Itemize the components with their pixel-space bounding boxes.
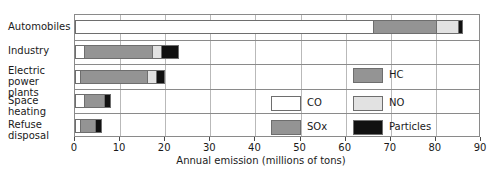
legend-swatch-particles xyxy=(353,120,383,135)
legend-label: CO xyxy=(307,97,322,109)
bar-segment-particles xyxy=(458,20,463,34)
category-label: Automobiles xyxy=(8,21,70,32)
bar-segment-co xyxy=(75,45,84,59)
category-label: Refuse disposal xyxy=(8,119,70,141)
legend-label: HC xyxy=(389,69,404,81)
x-tick xyxy=(300,137,301,141)
legend-swatch-co xyxy=(271,96,301,111)
x-tick xyxy=(74,137,75,141)
x-axis-title: Annual emission (millions of tons) xyxy=(0,155,492,166)
x-tick xyxy=(209,137,210,141)
x-tick xyxy=(119,137,120,141)
category-label: Space heating xyxy=(8,95,70,117)
legend-label: NO xyxy=(389,97,404,109)
plot-area: COSOxHCNOParticles xyxy=(74,14,480,137)
category-label: Electric power plants xyxy=(8,65,70,98)
bar-segment-sox xyxy=(84,45,152,59)
emissions-chart-figure: AutomobilesIndustryElectric power plants… xyxy=(0,0,492,178)
x-tick-label: 20 xyxy=(149,142,179,154)
legend-label: Particles xyxy=(389,121,431,133)
x-tick xyxy=(390,137,391,141)
bar-segment-sox xyxy=(80,119,96,133)
x-tick-label: 30 xyxy=(194,142,224,154)
legend-swatch-sox xyxy=(271,120,301,135)
row-separator xyxy=(75,89,479,90)
x-tick-label: 90 xyxy=(465,142,492,154)
row-separator xyxy=(75,113,479,114)
legend-swatch-hc xyxy=(353,68,383,83)
bar-segment-particles xyxy=(161,45,179,59)
x-tick-label: 80 xyxy=(420,142,450,154)
bar-row xyxy=(75,70,481,84)
x-tick xyxy=(480,137,481,141)
bar-segment-no xyxy=(436,20,459,34)
category-label: Industry xyxy=(8,45,70,56)
bar-segment-co xyxy=(75,94,84,108)
row-separator xyxy=(75,64,479,65)
x-tick xyxy=(164,137,165,141)
legend-label: SOx xyxy=(307,121,327,133)
bar-segment-particles xyxy=(104,94,111,108)
x-tick-label: 10 xyxy=(104,142,134,154)
bar-segment-hc xyxy=(373,20,436,34)
x-axis-title-label: Annual emission (millions of tons) xyxy=(176,155,345,166)
bar-row xyxy=(75,45,481,59)
x-tick xyxy=(345,137,346,141)
x-tick-label: 0 xyxy=(59,142,89,154)
bar-segment-no xyxy=(147,70,156,84)
bar-row xyxy=(75,20,481,34)
bar-segment-co xyxy=(75,20,373,34)
bar-segment-sox xyxy=(80,70,148,84)
row-separator xyxy=(75,40,479,41)
x-tick-label: 50 xyxy=(285,142,315,154)
x-tick xyxy=(254,137,255,141)
bar-segment-no xyxy=(152,45,161,59)
bar-segment-sox xyxy=(84,94,104,108)
x-tick-label: 70 xyxy=(375,142,405,154)
legend-swatch-no xyxy=(353,96,383,111)
x-tick-label: 60 xyxy=(330,142,360,154)
bar-segment-particles xyxy=(95,119,102,133)
bar-segment-particles xyxy=(156,70,165,84)
x-tick xyxy=(435,137,436,141)
x-tick-label: 40 xyxy=(239,142,269,154)
